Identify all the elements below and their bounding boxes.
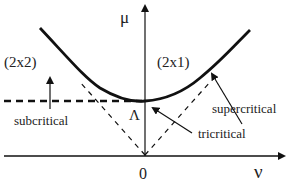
subcritical-label: subcritical — [14, 113, 69, 128]
tricritical-arrow — [153, 108, 192, 133]
nu-axis-label: ν — [254, 161, 263, 182]
origin-label: 0 — [139, 165, 147, 182]
region-2x2-label: (2x2) — [4, 54, 37, 71]
tricritical-label: tricritical — [198, 126, 246, 141]
phase-diagram: μ ν 0 (2x2) (2x1) Λ subcritical supercri… — [0, 0, 290, 184]
mu-axis-label: μ — [120, 8, 129, 27]
supercritical-label: supercritical — [212, 101, 277, 116]
region-2x1-label: (2x1) — [157, 54, 190, 71]
tricritical-point-label: Λ — [129, 107, 140, 123]
supercritical-arrow — [212, 74, 242, 124]
